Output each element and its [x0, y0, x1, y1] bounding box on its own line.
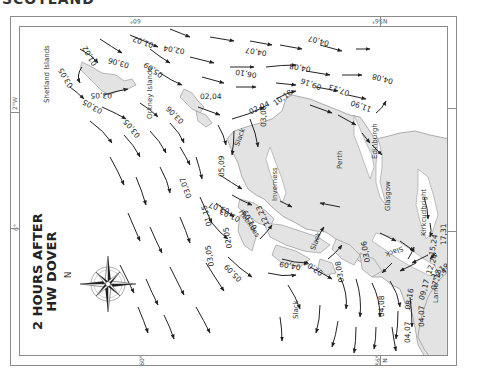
rate-label: 03,05 — [91, 92, 112, 100]
rate-label: 04,07 — [404, 322, 412, 343]
compass-rose-icon — [78, 254, 138, 314]
degree-label-bottom-n: N — [381, 358, 388, 363]
degree-label-top-n: N — [383, 18, 388, 25]
rate-label: 03,06 — [260, 106, 268, 127]
rate-label: 05,09 — [218, 156, 226, 177]
rate-label: 17,31 — [440, 224, 448, 245]
degree-label-bottom-60: 60° — [138, 355, 145, 366]
page-title: SCOTLAND — [2, 0, 95, 7]
rate-label: 02,04 — [200, 93, 221, 101]
rate-label: 04,08 — [378, 296, 386, 317]
place-glasgow: Glasgow — [385, 181, 392, 211]
chart-title: 2 HOURS AFTER HW DOVER — [31, 213, 59, 330]
rate-label: 04,07 — [418, 306, 426, 327]
place-inverness: Inverness — [272, 167, 279, 201]
place-shetland: Shetland Islands — [44, 45, 51, 103]
place-perth: Perth — [337, 151, 344, 169]
place-edinburgh: Edinburgh — [372, 123, 379, 159]
degree-label-left-2w: 2°W — [11, 97, 18, 110]
degree-label-top-56: 56° — [372, 18, 383, 25]
slack-label-3: Slack — [293, 300, 300, 319]
mainland-landmass — [227, 95, 448, 356]
north-label: N — [63, 272, 73, 279]
place-kirkcudbright: Kirkcudbright — [421, 189, 428, 236]
chart-title-line2: HW DOVER — [45, 213, 59, 330]
degree-label-top-60: 60° — [130, 18, 141, 25]
chart-title-line1: 2 HOURS AFTER — [31, 213, 45, 330]
